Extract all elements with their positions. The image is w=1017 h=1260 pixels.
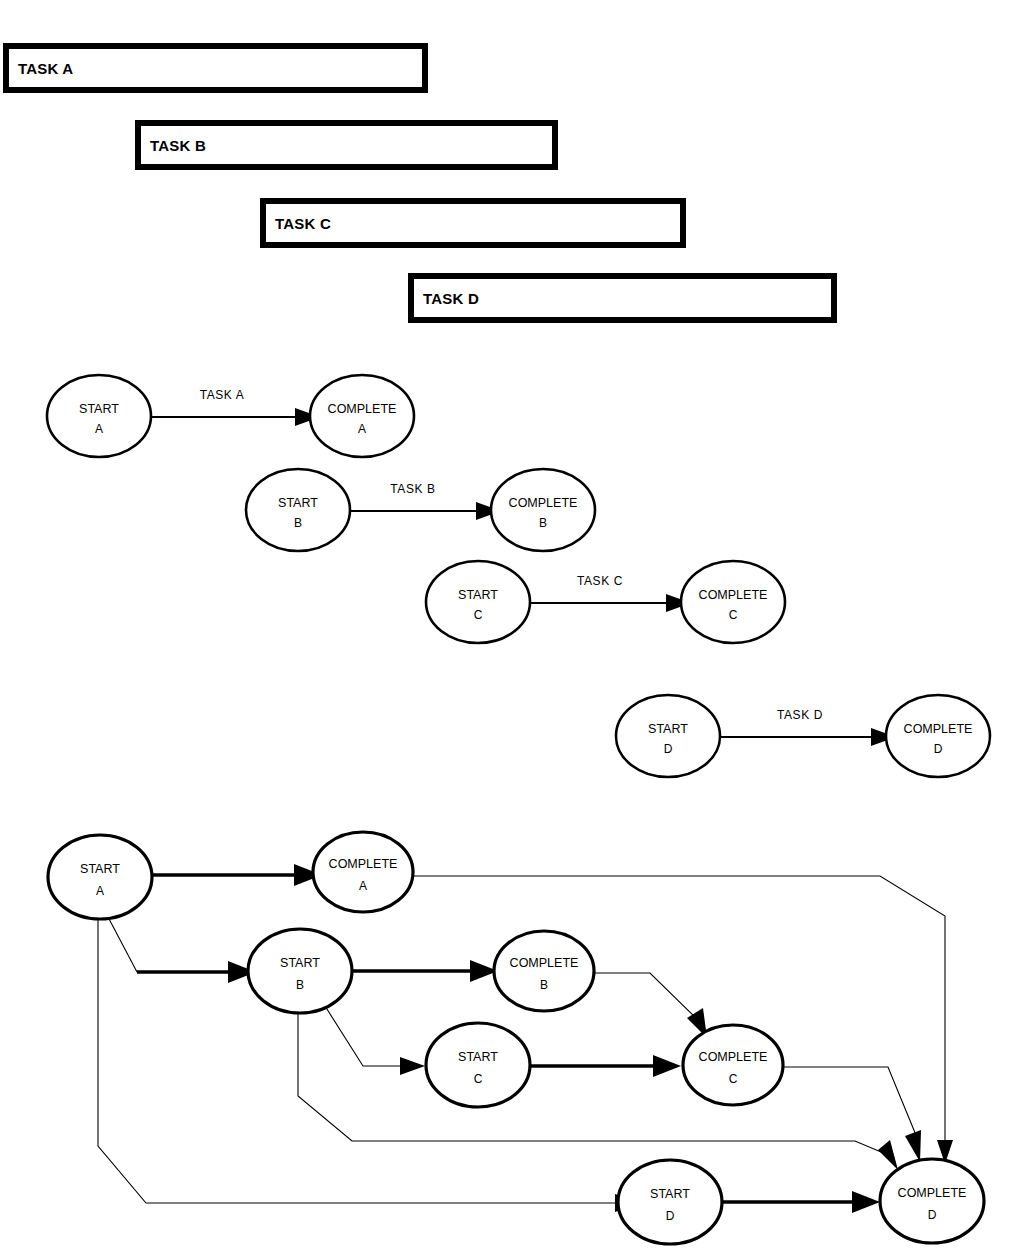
node-complete-d-simple-line2: D bbox=[934, 742, 943, 756]
gantt-bar-task-a[interactable]: TASK A bbox=[6, 46, 425, 90]
node-complete-a-simple-line2: A bbox=[358, 422, 366, 436]
node-complete-c-combined-line1: COMPLETE bbox=[699, 1050, 768, 1064]
node-complete-d-combined-line2: D bbox=[928, 1208, 937, 1222]
node-start-c-combined[interactable]: START C bbox=[426, 1023, 530, 1107]
node-start-a-combined[interactable]: START A bbox=[48, 835, 152, 919]
arrowhead-start-c-to-complete-c-combined bbox=[653, 1055, 681, 1077]
edge-path-complete-b-to-complete-c bbox=[594, 973, 700, 1022]
edge-path-start-b-to-start-c bbox=[325, 1006, 400, 1066]
node-complete-c-combined-shape bbox=[683, 1025, 783, 1105]
node-start-c-simple[interactable] bbox=[426, 561, 530, 643]
node-start-b-combined-line1: START bbox=[280, 956, 320, 970]
node-complete-d-simple[interactable] bbox=[886, 695, 990, 777]
node-complete-b-combined-shape bbox=[494, 931, 594, 1011]
node-complete-c-simple-line1: COMPLETE bbox=[699, 588, 768, 602]
node-start-d-simple-line1: START bbox=[648, 722, 688, 736]
node-complete-a-simple-line1: COMPLETE bbox=[328, 402, 397, 416]
simple-network-row-b: TASK B START B COMPLETE B bbox=[246, 469, 595, 551]
edge-label-task-d: TASK D bbox=[777, 708, 823, 722]
node-complete-a-combined-line1: COMPLETE bbox=[329, 857, 398, 871]
node-complete-d-combined[interactable]: COMPLETE D bbox=[880, 1159, 984, 1243]
node-complete-d-combined-shape bbox=[880, 1159, 984, 1243]
simple-network-row-d: TASK D START D COMPLETE D bbox=[616, 695, 990, 777]
node-start-a-combined-line2: A bbox=[96, 884, 104, 898]
node-complete-b-combined-line1: COMPLETE bbox=[510, 956, 579, 970]
simple-network-row-a: TASK A START A COMPLETE A bbox=[47, 375, 414, 457]
arrowhead-complete-c-to-complete-d bbox=[905, 1130, 921, 1162]
node-start-b-combined[interactable]: START B bbox=[248, 929, 352, 1013]
node-start-c-combined-line1: START bbox=[458, 1050, 498, 1064]
gantt-bar-label-task-d: TASK D bbox=[423, 290, 479, 307]
node-complete-b-simple-line1: COMPLETE bbox=[509, 496, 578, 510]
node-complete-c-simple-line2: C bbox=[729, 608, 738, 622]
arrowhead-start-d-to-complete-d-combined bbox=[852, 1191, 880, 1213]
node-start-d-simple-line2: D bbox=[664, 742, 673, 756]
gantt-bar-task-c[interactable]: TASK C bbox=[263, 201, 683, 245]
combined-network-nodes: START A COMPLETE A START B COMPLETE B ST bbox=[48, 832, 984, 1244]
node-complete-c-combined-line2: C bbox=[729, 1072, 738, 1086]
simple-network-row-c: TASK C START C COMPLETE C bbox=[426, 561, 785, 643]
node-start-b-combined-shape bbox=[248, 929, 352, 1013]
node-complete-b-combined[interactable]: COMPLETE B bbox=[494, 931, 594, 1011]
node-complete-d-simple-line1: COMPLETE bbox=[904, 722, 973, 736]
node-complete-d-combined-line1: COMPLETE bbox=[898, 1186, 967, 1200]
gantt-bar-task-d[interactable]: TASK D bbox=[411, 276, 834, 320]
node-start-b-simple[interactable] bbox=[246, 469, 350, 551]
task-network-diagram: TASK A TASK B TASK C TASK D TASK A START… bbox=[0, 0, 1017, 1260]
node-start-d-combined[interactable]: START D bbox=[618, 1160, 722, 1244]
node-complete-b-simple[interactable] bbox=[491, 469, 595, 551]
edge-label-task-b: TASK B bbox=[390, 482, 435, 496]
edge-path-start-b-to-complete-d bbox=[298, 1012, 893, 1157]
node-complete-b-combined-line2: B bbox=[540, 978, 548, 992]
arrowhead-start-b-to-complete-d bbox=[878, 1140, 898, 1170]
node-start-d-combined-line1: START bbox=[650, 1187, 690, 1201]
node-complete-b-simple-line2: B bbox=[539, 516, 547, 530]
edge-path-complete-c-to-complete-d bbox=[783, 1067, 918, 1140]
gantt-bar-label-task-c: TASK C bbox=[275, 215, 331, 232]
edge-path-start-a-to-start-b-lead bbox=[108, 917, 137, 972]
node-start-b-combined-line2: B bbox=[296, 978, 304, 992]
node-start-a-simple[interactable] bbox=[47, 375, 151, 457]
gantt-bar-label-task-a: TASK A bbox=[18, 60, 73, 77]
node-start-c-combined-line2: C bbox=[474, 1072, 483, 1086]
node-start-b-simple-line2: B bbox=[294, 516, 302, 530]
node-start-b-simple-line1: START bbox=[278, 496, 318, 510]
node-start-a-simple-line2: A bbox=[95, 422, 103, 436]
node-complete-a-combined-shape bbox=[313, 832, 413, 912]
arrowhead-start-b-to-start-c bbox=[400, 1057, 425, 1075]
node-complete-a-simple[interactable] bbox=[310, 375, 414, 457]
node-complete-a-combined[interactable]: COMPLETE A bbox=[313, 832, 413, 912]
node-complete-c-combined[interactable]: COMPLETE C bbox=[683, 1025, 783, 1105]
node-complete-c-simple[interactable] bbox=[681, 561, 785, 643]
gantt-section: TASK A TASK B TASK C TASK D bbox=[6, 46, 834, 320]
combined-network-thin-edges bbox=[98, 876, 953, 1212]
node-start-d-simple[interactable] bbox=[616, 695, 720, 777]
node-start-c-combined-shape bbox=[426, 1023, 530, 1107]
node-start-d-combined-line2: D bbox=[666, 1209, 675, 1223]
node-start-a-combined-line1: START bbox=[80, 862, 120, 876]
node-complete-a-combined-line2: A bbox=[359, 879, 367, 893]
node-start-d-combined-shape bbox=[618, 1160, 722, 1244]
edge-label-task-a: TASK A bbox=[200, 388, 245, 402]
node-start-a-combined-shape bbox=[48, 835, 152, 919]
gantt-bar-task-b[interactable]: TASK B bbox=[138, 123, 555, 167]
node-start-a-simple-line1: START bbox=[79, 402, 119, 416]
gantt-bar-label-task-b: TASK B bbox=[150, 137, 206, 154]
diagram-canvas: TASK A TASK B TASK C TASK D TASK A START… bbox=[0, 0, 1017, 1260]
node-start-c-simple-line1: START bbox=[458, 588, 498, 602]
edge-label-task-c: TASK C bbox=[577, 574, 623, 588]
node-start-c-simple-line2: C bbox=[474, 608, 483, 622]
